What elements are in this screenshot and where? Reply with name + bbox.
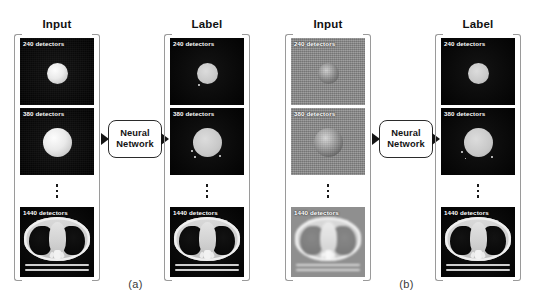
tile-input-b-380[interactable]: 380 detectors bbox=[291, 108, 365, 175]
tile-label: 380 detectors bbox=[23, 110, 64, 117]
bracket-label-b: 240 detectors 380 detectors bbox=[435, 34, 521, 281]
column-label-a: Label 240 detectors bbox=[164, 18, 250, 281]
lesion-blob bbox=[47, 63, 68, 84]
tile-label: 240 detectors bbox=[23, 40, 64, 47]
tile-label: 1440 detectors bbox=[173, 209, 218, 216]
ct-image-noisy bbox=[291, 207, 365, 277]
lesion-blob bbox=[468, 63, 489, 84]
tile-stack-label-b: 240 detectors 380 detectors bbox=[441, 38, 515, 277]
tile-label-a-1440[interactable]: 1440 detectors bbox=[170, 207, 244, 277]
lesion-blob bbox=[464, 128, 493, 157]
bracket-input-a: 240 detectors 380 detectors bbox=[14, 34, 100, 281]
tile-label: 240 detectors bbox=[173, 40, 214, 47]
tile-input-a-240[interactable]: 240 detectors bbox=[20, 38, 94, 105]
ct-image-dark bbox=[441, 108, 515, 175]
column-label-b: Label 240 detectors bbox=[435, 18, 521, 281]
neural-network-block-a: Neural Network bbox=[101, 120, 169, 158]
tile-input-a-1440[interactable]: 1440 detectors bbox=[20, 207, 94, 277]
column-title-input-a: Input bbox=[14, 18, 100, 30]
tile-label-a-240[interactable]: 240 detectors bbox=[170, 38, 244, 105]
lesion-blob bbox=[197, 63, 218, 84]
ct-image-dark bbox=[170, 108, 244, 175]
subfigure-caption-b: (b) bbox=[271, 278, 542, 290]
vertical-ellipsis-icon bbox=[170, 178, 244, 204]
tile-label: 380 detectors bbox=[294, 110, 335, 117]
ct-image-dark bbox=[20, 207, 94, 277]
column-input-b: Input 240 detectors 380 detectors bbox=[285, 18, 371, 281]
thorax-slice bbox=[174, 217, 240, 261]
ct-image-dark bbox=[441, 38, 515, 105]
figure-root: Input 240 detectors bbox=[0, 0, 542, 303]
bracket-input-b: 240 detectors 380 detectors bbox=[285, 34, 371, 281]
tile-stack-input-b: 240 detectors 380 detectors bbox=[291, 38, 365, 277]
ct-image-noisy bbox=[291, 38, 365, 105]
tile-input-a-380[interactable]: 380 detectors bbox=[20, 108, 94, 175]
ct-image-dark bbox=[170, 207, 244, 277]
bracket-label-a: 240 detectors 380 detectors bbox=[164, 34, 250, 281]
tile-label-b-1440[interactable]: 1440 detectors bbox=[441, 207, 515, 277]
subfigure-caption-a: (a) bbox=[0, 278, 271, 290]
thorax-slice bbox=[24, 217, 90, 261]
tile-label: 1440 detectors bbox=[23, 209, 68, 216]
ct-image-noisy bbox=[291, 108, 365, 175]
tile-input-b-1440[interactable]: 1440 detectors bbox=[291, 207, 365, 277]
neural-network-block-b: Neural Network bbox=[372, 120, 440, 158]
thorax-slice bbox=[445, 217, 511, 261]
nn-label-line2: Network bbox=[387, 139, 424, 150]
nn-label-line2: Network bbox=[116, 139, 153, 150]
nn-label-line1: Neural bbox=[120, 128, 150, 139]
ct-image-dark bbox=[170, 38, 244, 105]
ct-image-dark bbox=[20, 108, 94, 175]
lesion-blob bbox=[193, 128, 222, 157]
tile-label: 1440 detectors bbox=[294, 209, 339, 216]
tile-label: 1440 detectors bbox=[444, 209, 489, 216]
vertical-ellipsis-icon bbox=[291, 178, 365, 204]
subfigure-a: Input 240 detectors bbox=[0, 0, 271, 303]
tile-label: 380 detectors bbox=[444, 110, 485, 117]
column-input-a: Input 240 detectors bbox=[14, 18, 100, 281]
ct-image-dark bbox=[20, 38, 94, 105]
tile-label-a-380[interactable]: 380 detectors bbox=[170, 108, 244, 175]
tile-label-b-240[interactable]: 240 detectors bbox=[441, 38, 515, 105]
subfigure-b: Input 240 detectors 380 detectors bbox=[271, 0, 542, 303]
tile-stack-input-a: 240 detectors 380 detectors bbox=[20, 38, 94, 277]
thorax-slice bbox=[295, 217, 361, 261]
tile-stack-label-a: 240 detectors 380 detectors bbox=[170, 38, 244, 277]
lesion-blob bbox=[318, 63, 339, 84]
tile-label-b-380[interactable]: 380 detectors bbox=[441, 108, 515, 175]
neural-network-box-b[interactable]: Neural Network bbox=[379, 120, 433, 158]
lesion-blob bbox=[314, 128, 343, 157]
column-title-label-b: Label bbox=[435, 18, 521, 30]
neural-network-box-a[interactable]: Neural Network bbox=[108, 120, 162, 158]
vertical-ellipsis-icon bbox=[441, 178, 515, 204]
ct-image-dark bbox=[441, 207, 515, 277]
tile-input-b-240[interactable]: 240 detectors bbox=[291, 38, 365, 105]
column-title-label-a: Label bbox=[164, 18, 250, 30]
lesion-blob bbox=[43, 128, 72, 157]
tile-label: 240 detectors bbox=[294, 40, 335, 47]
nn-label-line1: Neural bbox=[391, 128, 421, 139]
vertical-ellipsis-icon bbox=[20, 178, 94, 204]
tile-label: 380 detectors bbox=[173, 110, 214, 117]
tile-label: 240 detectors bbox=[444, 40, 485, 47]
column-title-input-b: Input bbox=[285, 18, 371, 30]
